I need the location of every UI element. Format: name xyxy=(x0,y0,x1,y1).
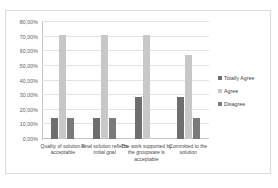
plot-area: 80,00%70,00%60,00%50,00%40,00%30,00%20,0… xyxy=(42,22,209,139)
y-axis-tick-label: 30,00% xyxy=(20,92,38,98)
bar[interactable] xyxy=(109,118,116,139)
bar[interactable] xyxy=(143,35,150,139)
chart-frame: 80,00%70,00%60,00%50,00%40,00%30,00%20,0… xyxy=(5,10,271,174)
bar[interactable] xyxy=(67,118,74,139)
bar[interactable] xyxy=(101,35,108,139)
legend-swatch-icon xyxy=(218,89,222,93)
y-axis-tick-label: 0,00% xyxy=(23,136,38,142)
bar-group: The work supported by the groupware is a… xyxy=(126,22,168,139)
bar-group: Committed to the solution xyxy=(167,22,209,139)
bar[interactable] xyxy=(135,97,142,139)
legend-swatch-icon xyxy=(218,76,222,80)
y-axis-tick-label: 70,00% xyxy=(20,34,38,40)
legend-item[interactable]: Totally Agree xyxy=(218,75,270,81)
legend-item[interactable]: Disagree xyxy=(218,101,270,107)
y-axis-tick-label: 40,00% xyxy=(20,78,38,84)
y-axis-tick-label: 80,00% xyxy=(20,19,38,25)
bar-group: Quality of solution is acceptable xyxy=(42,22,84,139)
bar[interactable] xyxy=(59,35,66,139)
y-axis-tick-label: 20,00% xyxy=(20,107,38,113)
x-axis-category-label: Committed to the solution xyxy=(161,143,215,156)
y-axis-tick-label: 50,00% xyxy=(20,63,38,69)
bar[interactable] xyxy=(51,118,58,139)
bar[interactable] xyxy=(193,118,200,139)
y-axis-tick-label: 10,00% xyxy=(20,121,38,127)
y-axis-tick-label: 60,00% xyxy=(20,48,38,54)
legend-label: Totally Agree xyxy=(224,75,254,81)
bar[interactable] xyxy=(93,118,100,139)
legend-item[interactable]: Agree xyxy=(218,88,270,94)
legend-label: Disagree xyxy=(224,101,245,107)
chart-legend: Totally AgreeAgreeDisagree xyxy=(218,75,270,114)
legend-label: Agree xyxy=(224,88,238,94)
legend-swatch-icon xyxy=(218,102,222,106)
bar[interactable] xyxy=(185,55,192,139)
bar[interactable] xyxy=(177,97,184,139)
bar-group: Final solution reflects initial goal xyxy=(84,22,126,139)
